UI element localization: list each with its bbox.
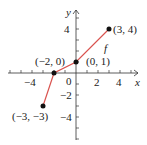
data-point [107, 27, 112, 32]
function-label: f [104, 42, 109, 54]
point-label-neg2-0: (−2, 0) [35, 55, 65, 68]
y-tick-label-4: 4 [64, 23, 70, 35]
data-point [41, 104, 46, 109]
x-axis-label: x [134, 76, 140, 88]
x-tick-label-4: 4 [116, 76, 122, 88]
origin-label: 0 [66, 75, 72, 87]
point-label-0-1: (0, 1) [86, 55, 110, 68]
data-point [52, 71, 57, 76]
y-axis-label: y [65, 6, 71, 18]
y-tick-label-neg2: −2 [60, 89, 72, 101]
point-label-neg3-neg3: (−3, −3) [12, 110, 49, 123]
data-point [74, 60, 79, 65]
y-tick-label-neg4: −4 [60, 111, 72, 123]
x-tick-label-2: 2 [94, 76, 100, 88]
function-graph: y x f 0 −4 2 4 4 −2 −4 (3, 4) (0, 1) (−2… [0, 0, 147, 145]
x-tick-label-neg4: −4 [24, 76, 36, 88]
point-label-3-4: (3, 4) [113, 23, 137, 36]
